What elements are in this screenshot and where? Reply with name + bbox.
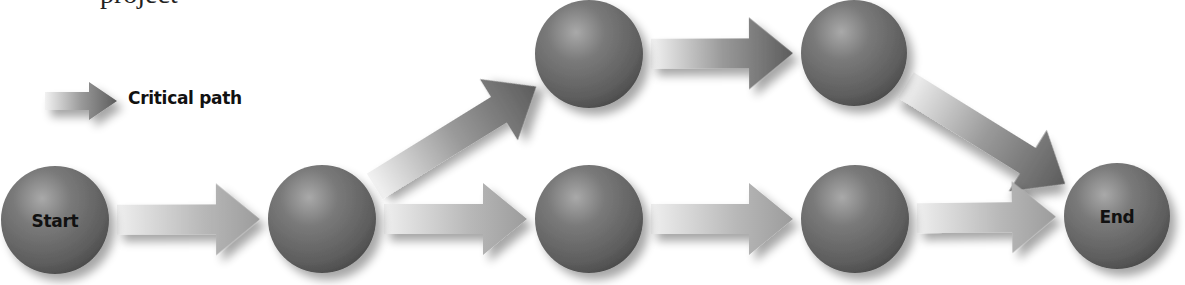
node-sphere-top1 xyxy=(535,0,643,108)
node-sphere-top2 xyxy=(801,0,907,106)
node-sphere-end xyxy=(1064,163,1170,269)
critical-arrow-top2-to-end xyxy=(887,55,1084,215)
critical-arrow-top1-to-top2 xyxy=(651,17,793,90)
legend-label: Critical path xyxy=(128,88,242,108)
network-diagram: project xyxy=(0,0,1185,285)
node-sphere-b4 xyxy=(801,165,909,273)
node-sphere-start xyxy=(1,166,109,274)
arrow-start-to-n2 xyxy=(117,183,260,256)
critical-arrow-n2-to-top1 xyxy=(356,56,555,217)
node-sphere-b3 xyxy=(535,165,643,273)
diagram-canvas xyxy=(0,0,1185,285)
arrow-b3-to-b4 xyxy=(651,183,793,255)
arrow-b4-to-end xyxy=(917,181,1057,255)
critical-path-arrow-icon xyxy=(45,82,117,120)
arrow-n2-to-b3 xyxy=(384,183,527,255)
node-sphere-n2 xyxy=(268,165,376,273)
